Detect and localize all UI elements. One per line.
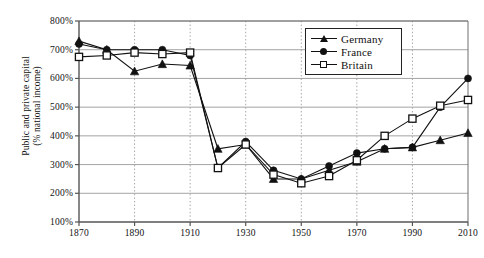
data-point-marker-circle [76, 40, 83, 47]
x-axis-tick-label: 1950 [278, 228, 324, 238]
data-point-marker-square [381, 132, 388, 139]
data-point-marker-circle [381, 145, 388, 152]
legend-marker-triangle-icon [311, 32, 337, 45]
data-point-marker-square [270, 171, 277, 178]
series-germany [75, 37, 472, 183]
data-point-marker-square [103, 52, 110, 59]
y-axis-tick-label: 700% [29, 45, 73, 55]
x-axis-tick-label: 1990 [389, 228, 435, 238]
data-point-marker-circle [465, 75, 472, 82]
legend-marker-filled-circle-icon [311, 45, 337, 58]
y-axis-tick-label: 200% [29, 188, 73, 198]
x-axis-tick-label: 2010 [445, 228, 484, 238]
y-axis-tick-label: 100% [29, 217, 73, 227]
y-axis-tick-label: 300% [29, 160, 73, 170]
data-point-marker-triangle [464, 129, 472, 137]
legend-label: Germany [337, 33, 383, 45]
legend-item-britain: Britain [311, 58, 394, 71]
data-point-marker-square [75, 53, 82, 60]
chart-legend: GermanyFranceBritain [305, 28, 402, 75]
data-point-marker-square [409, 115, 416, 122]
x-axis-tick-label: 1970 [334, 228, 380, 238]
data-point-marker-square [214, 164, 221, 171]
data-point-marker-square [464, 96, 471, 103]
x-axis-tick-label: 1870 [56, 228, 102, 238]
data-point-marker-square [298, 180, 305, 187]
y-axis-tick-label: 800% [29, 16, 73, 26]
x-axis-tick-label: 1890 [112, 228, 158, 238]
chart-figure: Public and private capital (% national i… [0, 0, 484, 258]
legend-item-germany: Germany [311, 32, 394, 45]
data-point-marker-circle [409, 144, 416, 151]
legend-item-france: France [311, 45, 394, 58]
legend-label: Britain [337, 59, 373, 71]
data-point-marker-square [131, 49, 138, 56]
y-axis-tick-label: 600% [29, 73, 73, 83]
data-point-marker-circle [326, 163, 333, 170]
data-point-marker-square [242, 141, 249, 148]
y-axis-tick-label: 400% [29, 131, 73, 141]
legend-marker-open-square-icon [311, 58, 337, 71]
x-axis-tick-label: 1910 [167, 228, 213, 238]
series-line [79, 41, 468, 179]
y-axis-tick-label: 500% [29, 102, 73, 112]
data-point-marker-square [187, 49, 194, 56]
data-point-marker-square [437, 102, 444, 109]
data-point-marker-circle [353, 150, 360, 157]
data-point-marker-square [353, 157, 360, 164]
series-line [79, 44, 468, 179]
data-point-marker-square [325, 172, 332, 179]
data-point-marker-square [159, 50, 166, 57]
x-axis-tick-label: 1930 [223, 228, 269, 238]
legend-label: France [337, 46, 372, 58]
